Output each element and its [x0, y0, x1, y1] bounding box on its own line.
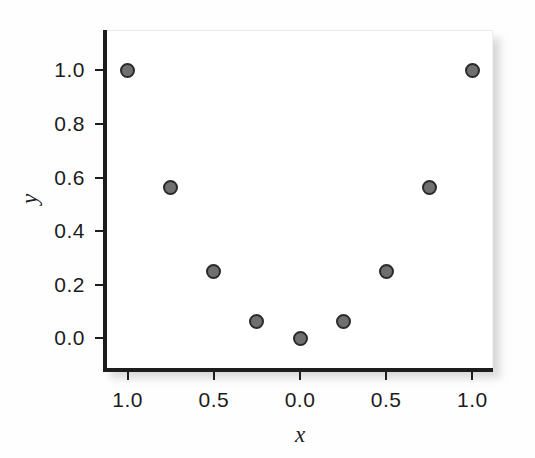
y-tick-label: 0.0 — [54, 326, 85, 350]
x-tick-mark — [385, 369, 387, 380]
y-tick-mark — [95, 177, 106, 179]
y-tick-label: 0.6 — [54, 166, 85, 190]
data-point — [206, 264, 221, 279]
y-tick-label: 0.4 — [54, 219, 85, 243]
data-point — [120, 63, 135, 78]
y-tick-mark — [95, 123, 106, 125]
x-tick-label: 1.0 — [457, 388, 488, 412]
y-tick-mark — [95, 230, 106, 232]
y-tick-mark — [95, 284, 106, 286]
y-tick-label: 1.0 — [54, 58, 85, 82]
x-tick-label: 1.0 — [112, 388, 143, 412]
x-tick-label: 0.5 — [371, 388, 402, 412]
y-tick-mark — [95, 337, 106, 339]
data-point — [293, 331, 308, 346]
x-axis-label: x — [107, 422, 493, 448]
data-point — [465, 63, 480, 78]
data-point — [163, 180, 178, 195]
data-point — [422, 180, 437, 195]
y-tick-mark — [95, 69, 106, 71]
x-tick-mark — [127, 369, 129, 380]
x-tick-label: 0.5 — [198, 388, 229, 412]
plot-axes-area: 1.00.50.00.51.0 1.00.80.60.40.20.0 x y — [103, 30, 493, 372]
x-tick-mark — [299, 369, 301, 380]
scatter-plot-figure: 1.00.50.00.51.0 1.00.80.60.40.20.0 x y — [0, 0, 535, 458]
x-tick-label: 0.0 — [285, 388, 316, 412]
data-point — [249, 314, 264, 329]
data-point — [379, 264, 394, 279]
data-point — [336, 314, 351, 329]
y-axis-label: y — [17, 194, 43, 204]
y-tick-label: 0.2 — [54, 273, 85, 297]
x-tick-mark — [213, 369, 215, 380]
y-tick-label: 0.8 — [54, 112, 85, 136]
x-tick-mark — [471, 369, 473, 380]
